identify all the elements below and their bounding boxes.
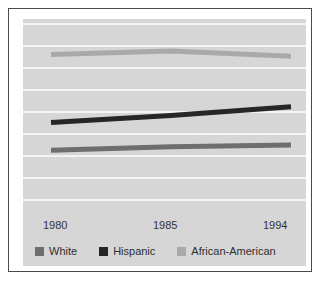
chart-frame: 1980 1985 1994 White Hispanic African-Am… bbox=[8, 8, 312, 272]
x-axis: 1980 1985 1994 bbox=[23, 219, 306, 239]
chart-panel: 1980 1985 1994 White Hispanic African-Am… bbox=[23, 19, 306, 266]
x-tick-label-1980: 1980 bbox=[43, 219, 67, 231]
plot-area bbox=[23, 19, 306, 219]
line-hispanic bbox=[51, 107, 291, 123]
legend-swatch-icon bbox=[99, 247, 108, 256]
series-lines bbox=[23, 19, 306, 219]
legend-label-white: White bbox=[49, 245, 77, 257]
legend-item-white: White bbox=[35, 245, 77, 257]
legend-swatch-icon bbox=[35, 247, 44, 256]
legend-item-african-american: African-American bbox=[177, 245, 275, 257]
legend-label-hispanic: Hispanic bbox=[113, 245, 155, 257]
chart-legend: White Hispanic African-American bbox=[23, 241, 306, 261]
legend-swatch-icon bbox=[177, 247, 186, 256]
line-white bbox=[51, 145, 291, 150]
legend-label-african-american: African-American bbox=[191, 245, 275, 257]
line-african-american bbox=[51, 51, 291, 56]
legend-item-hispanic: Hispanic bbox=[99, 245, 155, 257]
x-tick-label-1994: 1994 bbox=[263, 219, 287, 231]
x-tick-label-1985: 1985 bbox=[153, 219, 177, 231]
